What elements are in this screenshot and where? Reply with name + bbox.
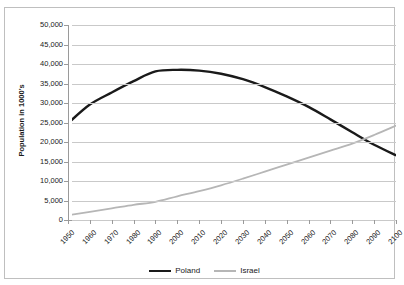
x-axis-tick-label: 1960: [75, 228, 98, 251]
x-axis-tick: [309, 220, 310, 224]
x-axis-tick-label: 2040: [250, 228, 273, 251]
y-axis-tick-label: 30,000: [7, 99, 63, 107]
series-line-israel: [72, 126, 396, 216]
chart-legend: PolandIsrael: [5, 266, 404, 275]
y-axis-tick: [64, 201, 68, 202]
y-axis-tick-label: 35,000: [7, 80, 63, 88]
plot-inner: [72, 27, 396, 220]
legend-label: Israel: [240, 266, 260, 275]
y-axis-tick-label: 40,000: [7, 60, 63, 68]
gridline: [72, 123, 396, 124]
chart-frame: 50,00045,00040,00035,00030,00025,00020,0…: [4, 7, 395, 279]
x-axis-tick: [177, 220, 178, 224]
gridline: [72, 162, 396, 163]
gridline: [72, 220, 396, 221]
x-axis-tick: [352, 220, 353, 224]
series-lines: [72, 27, 396, 220]
x-axis-tick-label: 2010: [184, 228, 207, 251]
x-axis-tick: [221, 220, 222, 224]
x-axis-tick-label: 2020: [206, 228, 229, 251]
y-axis-tick: [64, 84, 68, 85]
x-axis-tick: [134, 220, 135, 224]
y-axis-tick-label: 45,000: [7, 41, 63, 49]
x-axis-tick-label: 1990: [140, 228, 163, 251]
legend-label: Poland: [175, 266, 200, 275]
x-axis-tick: [90, 220, 91, 224]
x-axis-tick-label: 2080: [337, 228, 360, 251]
gridline: [72, 64, 396, 65]
plot-area: [68, 20, 396, 221]
y-axis-tick-label: 0: [7, 216, 63, 224]
x-axis-tick-label: 2030: [228, 228, 251, 251]
y-axis-tick: [64, 123, 68, 124]
y-axis-tick: [64, 103, 68, 104]
y-axis-tick-label: 25,000: [7, 119, 63, 127]
y-axis-tick-label: 15,000: [7, 158, 63, 166]
y-axis-tick-label: 50,000: [7, 21, 63, 29]
x-axis-tick: [396, 220, 397, 224]
x-axis-tick: [68, 220, 69, 224]
gridline: [72, 45, 396, 46]
x-axis-tick-label: 2060: [294, 228, 317, 251]
y-axis-tick: [64, 142, 68, 143]
x-axis-tick: [374, 220, 375, 224]
gridline: [72, 181, 396, 182]
x-axis-tick: [112, 220, 113, 224]
y-axis-tick-label: 10,000: [7, 177, 63, 185]
y-axis-tick: [64, 25, 68, 26]
legend-swatch-icon: [214, 270, 236, 272]
x-axis-tick-label: 1980: [119, 228, 142, 251]
y-axis-tick: [64, 162, 68, 163]
legend-item-israel[interactable]: Israel: [214, 266, 260, 275]
x-axis-tick: [330, 220, 331, 224]
y-axis-tick: [64, 45, 68, 46]
x-axis-tick-label: 2090: [359, 228, 382, 251]
gridline: [72, 201, 396, 202]
x-axis-tick: [287, 220, 288, 224]
x-axis-tick: [265, 220, 266, 224]
x-axis-tick: [155, 220, 156, 224]
legend-swatch-icon: [149, 270, 171, 272]
gridline: [72, 25, 396, 26]
x-axis-tick-label: 2000: [162, 228, 185, 251]
y-axis-tick-label: 5,000: [7, 197, 63, 205]
x-axis-tick-label: 1970: [97, 228, 120, 251]
gridline: [72, 142, 396, 143]
x-axis-tick-label: 2070: [315, 228, 338, 251]
y-axis-tick-label: 20,000: [7, 138, 63, 146]
x-axis-tick-label: 2050: [272, 228, 295, 251]
legend-item-poland[interactable]: Poland: [149, 266, 200, 275]
x-axis-tick-label: 2100: [381, 228, 404, 251]
x-axis-tick: [243, 220, 244, 224]
y-axis-tick: [64, 181, 68, 182]
gridline: [72, 103, 396, 104]
y-axis-title: Population in 1000's: [17, 69, 26, 173]
y-axis-tick: [64, 64, 68, 65]
x-axis-tick: [199, 220, 200, 224]
gridline: [72, 84, 396, 85]
